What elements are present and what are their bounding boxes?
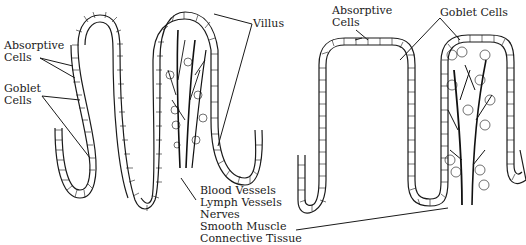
label-absorptive-cells-right: Absorptive Cells [332,5,392,29]
label-goblet-cells-left: Goblet Cells [4,83,41,107]
right-villi [298,35,526,213]
label-absorptive-cells-left: Absorptive Cells [4,40,64,64]
label-villus: Villus [253,18,284,30]
villi-diagram: Absorptive Cells Goblet Cells Villus Blo… [0,0,526,245]
right-villi-cells [298,35,515,211]
label-goblet-cells-right: Goblet Cells [440,7,508,19]
right-villus-core [445,47,495,205]
left-villus-core [166,30,207,168]
label-core-structures: Blood Vessels Lymph Vessels Nerves Smoot… [200,185,302,245]
left-villi [55,12,262,209]
